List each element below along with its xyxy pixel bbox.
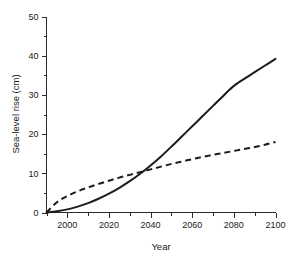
- y-tick-label: 50: [28, 12, 38, 22]
- x-tick-label: 2100: [265, 220, 285, 230]
- y-tick-label: 10: [28, 169, 38, 179]
- y-tick-label: 40: [28, 51, 38, 61]
- y-axis-title: Sea-level rise (cm): [10, 74, 21, 153]
- y-tick-label: 0: [33, 208, 38, 218]
- x-tick-label: 2020: [99, 220, 119, 230]
- x-tick-label: 2080: [224, 220, 244, 230]
- sea-level-rise-line-chart: 01020304050 200020202040206020802100 Yea…: [0, 0, 299, 264]
- x-tick-label: 2060: [182, 220, 202, 230]
- x-tick-label: 2040: [141, 220, 161, 230]
- chart-figure: 01020304050 200020202040206020802100 Yea…: [0, 0, 299, 264]
- x-tick-label: 2000: [57, 220, 77, 230]
- x-axis-title: Year: [151, 241, 170, 252]
- y-tick-label: 20: [28, 129, 38, 139]
- y-tick-label: 30: [28, 90, 38, 100]
